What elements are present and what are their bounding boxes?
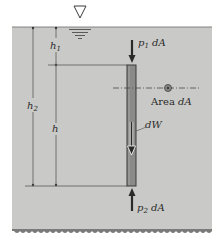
weight-label: dW (145, 119, 162, 130)
h-label: h (52, 123, 58, 134)
area-label: Area dA (150, 96, 192, 107)
bottom-wavy-edge (12, 229, 212, 233)
fluid-column-diagram: h2 h1 h Area dA p1 dA dW (0, 0, 223, 242)
circle-area-element-icon (165, 85, 172, 92)
liquid-region (12, 27, 212, 233)
